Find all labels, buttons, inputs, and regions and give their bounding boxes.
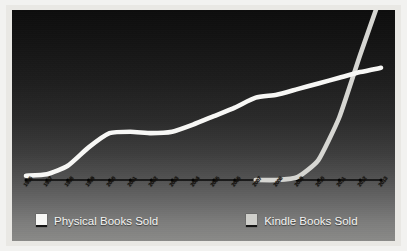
x-axis-tick-dot [108, 179, 111, 182]
x-axis-tick-dot [171, 179, 174, 182]
chart-plot-area [12, 10, 395, 241]
chart-lines-svg [12, 10, 395, 241]
x-axis-tick-dot [45, 179, 48, 182]
physical-books-sold-line [26, 68, 381, 176]
x-axis-tick-dot [212, 179, 215, 182]
x-axis-tick-dot [317, 179, 320, 182]
x-axis-tick-dot [359, 179, 362, 182]
x-axis-tick-dot [150, 179, 153, 182]
x-axis-tick-dot [87, 179, 90, 182]
x-axis-tick-dot [380, 179, 383, 182]
x-axis-tick-dot [25, 179, 28, 182]
x-axis-tick-dot [233, 179, 236, 182]
x-axis-tick-dot [129, 179, 132, 182]
chart-figure: 1996199719981999200020012002200320042005… [0, 0, 407, 251]
x-axis-tick-dot [338, 179, 341, 182]
x-axis-tick-dot [66, 179, 69, 182]
x-axis-tick-dot [192, 179, 195, 182]
